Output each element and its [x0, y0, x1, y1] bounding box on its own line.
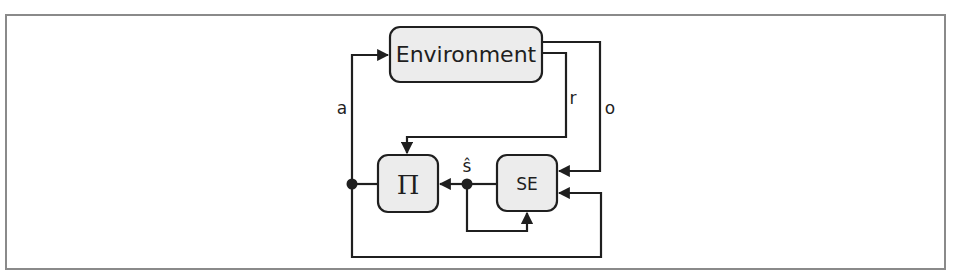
label-observation: o — [605, 98, 615, 118]
junction-dot-state-estimate — [462, 179, 473, 190]
label-action: a — [337, 98, 347, 118]
node-policy: Π — [378, 155, 438, 212]
node-state-estimator: SE — [497, 155, 557, 211]
node-environment-label: Environment — [396, 42, 537, 67]
label-state-estimate: ŝ — [463, 156, 472, 176]
node-policy-label: Π — [397, 170, 420, 200]
node-environment: Environment — [390, 27, 542, 82]
node-state-estimator-label: SE — [516, 174, 538, 194]
rl-diagram: Environment Π SE a r o ŝ — [0, 0, 955, 279]
junction-dot-action — [347, 179, 358, 190]
label-reward: r — [570, 88, 577, 108]
